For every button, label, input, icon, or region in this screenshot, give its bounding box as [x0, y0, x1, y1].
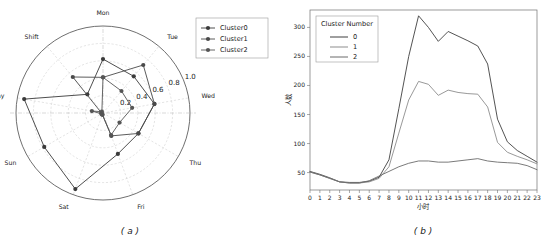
- x-axis-label: 小时: [417, 202, 430, 211]
- radar-axis-label-sun: Sun: [5, 159, 17, 166]
- figure-root: MonTueWedThuFriSatSunHolidayShift 0.20.4…: [0, 0, 551, 246]
- y-tick-label: 50: [297, 169, 305, 176]
- radar-data-point: [109, 133, 113, 137]
- radar-legend-marker: [206, 37, 210, 41]
- line-chart-panel: 50100150200250300 0123456789101112131415…: [280, 0, 551, 246]
- radar-axis-label-tue: Tue: [166, 33, 178, 40]
- line-legend-label-2[interactable]: 2: [353, 53, 357, 61]
- y-tick-label: 200: [294, 81, 306, 88]
- radar-data-point: [116, 152, 120, 156]
- x-tick-label: 15: [454, 194, 462, 201]
- x-tick-label: 21: [513, 194, 521, 201]
- radar-rtick-label: 0.8: [169, 79, 180, 87]
- line-chart-legend[interactable]: Cluster Number012: [316, 16, 378, 62]
- y-tick-label: 300: [294, 23, 306, 30]
- radar-series-line-cluster0: [24, 59, 154, 189]
- radar-data-point: [71, 75, 75, 79]
- radar-axis-label-sat: Sat: [59, 203, 70, 210]
- x-tick-label: 4: [348, 194, 352, 201]
- radar-data-point: [101, 75, 105, 79]
- radar-data-point: [130, 106, 134, 110]
- radar-axis-label-fri: Fri: [137, 203, 145, 210]
- x-tick-label: 22: [523, 194, 531, 201]
- x-tick-label: 5: [357, 194, 361, 201]
- radar-chart-panel: MonTueWedThuFriSatSunHolidayShift 0.20.4…: [0, 0, 280, 246]
- radar-axis-label-shift: Shift: [25, 33, 40, 40]
- x-tick-label: 13: [434, 194, 442, 201]
- radar-axis-label-mon: Mon: [96, 9, 109, 16]
- x-tick-label: 0: [308, 194, 312, 201]
- panel-b-caption: ( b ): [414, 226, 432, 236]
- radar-legend[interactable]: Cluster0Cluster1Cluster2: [196, 18, 268, 58]
- x-tick-label: 23: [533, 194, 541, 201]
- radar-data-point: [136, 131, 140, 135]
- x-tick-label: 19: [494, 194, 502, 201]
- radar-chart-svg: MonTueWedThuFriSatSunHolidayShift 0.20.4…: [0, 0, 280, 246]
- radar-radial-tick-labels: 0.20.40.60.81.0: [120, 73, 196, 107]
- radar-data-point: [101, 57, 105, 61]
- line-legend-label-0[interactable]: 0: [353, 33, 357, 41]
- radar-axis-label-holiday: Holiday: [0, 92, 5, 100]
- radar-data-point: [132, 74, 136, 78]
- y-axis-ticks: 50100150200250300: [294, 23, 310, 175]
- radar-data-point: [152, 102, 156, 106]
- radar-data-point: [90, 109, 94, 113]
- x-tick-label: 20: [504, 194, 512, 201]
- radar-legend-marker: [206, 48, 210, 52]
- x-tick-label: 12: [425, 194, 433, 201]
- panel-a-caption: ( a ): [121, 226, 139, 236]
- radar-rtick-label: 0.6: [152, 86, 164, 94]
- y-tick-label: 100: [294, 140, 306, 147]
- x-tick-label: 9: [397, 194, 401, 201]
- radar-data-point: [100, 110, 104, 114]
- y-tick-label: 250: [294, 52, 306, 59]
- x-tick-label: 3: [338, 194, 342, 201]
- line-chart-svg: 50100150200250300 0123456789101112131415…: [280, 0, 551, 246]
- radar-series-group: [22, 57, 156, 191]
- x-tick-label: 17: [474, 194, 482, 201]
- radar-data-point: [22, 97, 26, 101]
- radar-legend-marker: [206, 26, 210, 30]
- x-tick-label: 8: [387, 194, 391, 201]
- x-tick-label: 10: [405, 194, 413, 201]
- radar-spoke: [103, 113, 178, 157]
- radar-legend-label-cluster1[interactable]: Cluster1: [220, 35, 248, 43]
- radar-data-point: [117, 120, 121, 124]
- x-tick-label: 1: [318, 194, 322, 201]
- radar-axis-labels: MonTueWedThuFriSatSunHolidayShift: [0, 9, 215, 210]
- radar-rtick-label: 1.0: [185, 73, 196, 81]
- radar-axis-label-thu: Thu: [189, 159, 202, 166]
- line-series-2: [310, 159, 537, 183]
- y-tick-label: 150: [294, 111, 306, 118]
- x-tick-label: 7: [377, 194, 381, 201]
- y-axis-label: 人数: [284, 93, 293, 106]
- radar-legend-label-cluster2[interactable]: Cluster2: [220, 46, 248, 54]
- radar-axis-label-wed: Wed: [202, 92, 216, 99]
- x-axis-ticks: 01234567891011121314151617181920212223: [308, 190, 541, 201]
- radar-legend-label-cluster0[interactable]: Cluster0: [220, 24, 248, 32]
- x-tick-label: 2: [328, 194, 332, 201]
- radar-data-point: [73, 187, 77, 191]
- radar-data-point: [141, 63, 145, 67]
- x-tick-label: 18: [484, 194, 492, 201]
- line-legend-label-1[interactable]: 1: [353, 43, 357, 51]
- x-tick-label: 16: [464, 194, 472, 201]
- radar-data-point: [42, 145, 46, 149]
- x-tick-label: 11: [415, 194, 423, 201]
- x-tick-label: 14: [444, 194, 452, 201]
- x-tick-label: 6: [367, 194, 371, 201]
- radar-data-point: [119, 89, 123, 93]
- line-legend-title: Cluster Number: [321, 20, 373, 28]
